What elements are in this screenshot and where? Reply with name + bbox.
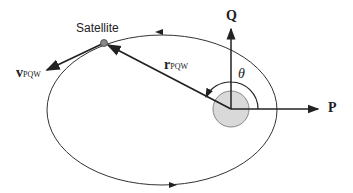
- satellite-dot: [101, 40, 108, 47]
- orbit-direction-arrow-top: [155, 29, 163, 35]
- orbit-diagram: [0, 0, 353, 193]
- p-axis-label: P: [328, 100, 337, 116]
- theta-label: θ: [238, 66, 245, 82]
- velocity-label-sub: PQW: [23, 70, 41, 79]
- q-axis-label: Q: [226, 8, 237, 24]
- satellite-label: Satellite: [76, 21, 119, 35]
- velocity-label-main: v: [16, 65, 23, 80]
- position-label: rPQW: [164, 55, 188, 73]
- position-label-sub: PQW: [170, 62, 188, 71]
- velocity-label: vPQW: [16, 63, 41, 81]
- orbit-direction-arrow-bottom: [169, 182, 177, 188]
- velocity-vector-arrow: [47, 43, 104, 70]
